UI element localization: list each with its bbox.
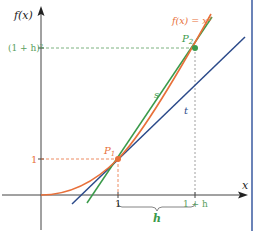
y-tick-1-label: 1 (31, 154, 37, 165)
p2-subscript: 2 (188, 38, 194, 46)
x-tick-1-label: 1 (115, 198, 121, 209)
x-axis-label: x (242, 179, 249, 192)
diagram-canvas: f(x) x f(x) = x² s t P1 P2 1 (1 + h)² 1 … (0, 0, 256, 231)
y-tick-2-label: (1 + h)² (8, 43, 44, 53)
x-tick-2-label: 1 + h (183, 199, 208, 209)
tangent-label: t (184, 105, 189, 116)
secant-label: s (154, 89, 159, 100)
p1-label: P1 (103, 145, 115, 158)
p1-subscript: 1 (111, 150, 115, 158)
tangent-line-t (72, 37, 245, 204)
brace-h-label: h (153, 212, 161, 225)
p2-label: P2 (181, 33, 194, 46)
point-p1 (115, 156, 121, 162)
curve-label: f(x) = x² (171, 15, 212, 26)
y-axis-label: f(x) (13, 9, 33, 22)
